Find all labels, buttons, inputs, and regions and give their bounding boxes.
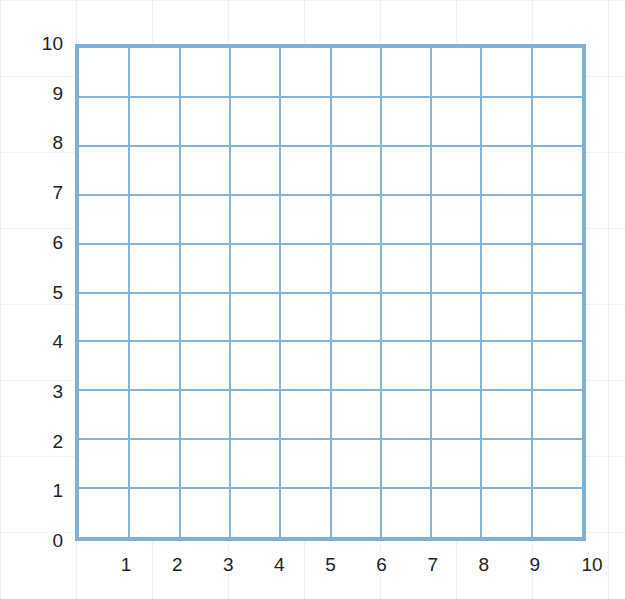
x-tick-label: 8 <box>464 555 504 574</box>
x-tick-label: 3 <box>208 555 248 574</box>
gridline-horizontal <box>79 194 582 196</box>
gridline-horizontal <box>79 145 582 147</box>
gridline-horizontal <box>79 292 582 294</box>
y-tick-label: 0 <box>23 531 63 550</box>
x-tick-label: 6 <box>362 555 402 574</box>
gridline-horizontal <box>79 243 582 245</box>
x-tick-label: 9 <box>515 555 555 574</box>
y-tick-label: 9 <box>23 84 63 103</box>
y-tick-label: 6 <box>23 233 63 252</box>
x-tick-label: 7 <box>413 555 453 574</box>
y-tick-label: 4 <box>23 332 63 351</box>
y-tick-label: 8 <box>23 133 63 152</box>
gridline-horizontal <box>79 96 582 98</box>
gridline-horizontal <box>79 340 582 342</box>
y-tick-label: 10 <box>23 34 63 53</box>
y-tick-label: 3 <box>23 382 63 401</box>
gridline-horizontal <box>79 487 582 489</box>
x-tick-label: 2 <box>157 555 197 574</box>
plot-area <box>75 44 586 541</box>
y-tick-label: 5 <box>23 283 63 302</box>
x-tick-label: 1 <box>106 555 146 574</box>
x-tick-label: 5 <box>311 555 351 574</box>
y-tick-label: 7 <box>23 183 63 202</box>
x-tick-label: 4 <box>259 555 299 574</box>
gridline-horizontal <box>79 438 582 440</box>
gridline-horizontal <box>79 389 582 391</box>
y-tick-label: 1 <box>23 481 63 500</box>
y-tick-label: 2 <box>23 432 63 451</box>
x-tick-label: 10 <box>572 555 612 574</box>
